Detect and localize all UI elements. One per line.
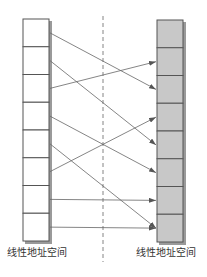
left-cell-2: [23, 75, 49, 103]
right-cell-4: [157, 131, 183, 159]
right-cell-0: [157, 20, 183, 48]
mapping-arrow-6-to-6: [50, 199, 156, 200]
right-cell-5: [157, 159, 183, 187]
left-cell-1: [23, 47, 49, 75]
left-address-space: [23, 19, 52, 244]
left-cell-3: [23, 102, 49, 130]
right-cell-7: [157, 214, 183, 242]
left-space-label: 线性地址空间: [7, 247, 67, 259]
left-cell-6: [23, 186, 49, 214]
mapping-arrow-7-to-7: [50, 227, 156, 228]
left-cell-7: [23, 213, 49, 241]
left-cell-5: [23, 158, 49, 186]
right-space-label: 线性地址空间: [136, 247, 194, 259]
right-address-space: [157, 20, 186, 245]
right-cell-3: [157, 103, 183, 131]
left-cell-4: [23, 130, 49, 158]
right-cell-6: [157, 187, 183, 215]
address-mapping-diagram: [0, 0, 207, 277]
left-cell-0: [23, 19, 49, 47]
right-cell-1: [157, 48, 183, 76]
right-cell-2: [157, 76, 183, 104]
